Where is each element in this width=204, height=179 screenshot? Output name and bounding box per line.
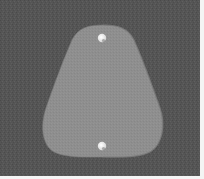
plate-photo-svg xyxy=(0,0,204,179)
border-bottom xyxy=(0,176,204,179)
photo xyxy=(0,0,204,179)
border-right xyxy=(200,0,204,179)
hole-top-shadow xyxy=(102,39,105,42)
hole-bottom-shadow xyxy=(102,147,105,150)
